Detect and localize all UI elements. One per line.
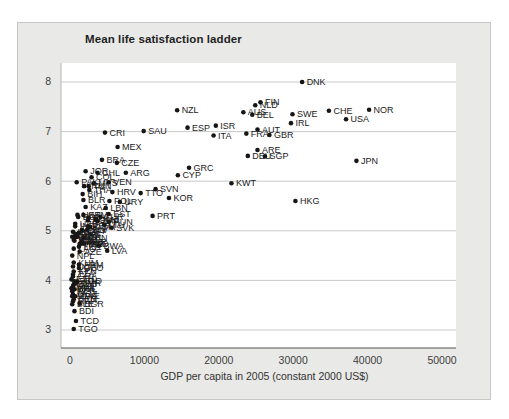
scatter-point bbox=[71, 274, 76, 279]
scatter-point bbox=[300, 80, 305, 85]
scatter-point bbox=[73, 294, 78, 299]
scatter-point bbox=[141, 129, 146, 134]
point-label: DNK bbox=[307, 77, 326, 87]
scatter-point bbox=[327, 108, 332, 113]
scatter-point bbox=[94, 218, 99, 223]
point-label: HKG bbox=[300, 196, 320, 206]
scatter-point bbox=[367, 107, 372, 112]
point-label: PRT bbox=[157, 211, 175, 221]
scatter-point bbox=[124, 170, 129, 175]
scatter-point bbox=[293, 199, 298, 204]
scatter-point bbox=[185, 125, 190, 130]
scatter-point bbox=[244, 131, 249, 136]
point-label: KWT bbox=[236, 178, 256, 188]
point-label: NZL bbox=[182, 105, 199, 115]
scatter-point bbox=[72, 287, 77, 292]
x-axis-title: GDP per capita in 2005 (constant 2000 US… bbox=[160, 370, 368, 382]
point-label: HND bbox=[84, 239, 104, 249]
scatter-point bbox=[81, 198, 86, 203]
scatter-point bbox=[70, 302, 75, 307]
scatter-point bbox=[103, 130, 108, 135]
scatter-point bbox=[138, 191, 143, 196]
scatter-point bbox=[74, 281, 79, 286]
scatter-point bbox=[250, 112, 255, 117]
scatter-point bbox=[83, 169, 88, 174]
point-label: BDI bbox=[79, 306, 94, 316]
point-label: SAU bbox=[148, 126, 167, 136]
scatter-point bbox=[176, 173, 181, 178]
scatter-point bbox=[74, 234, 79, 239]
x-tick-label: 30000 bbox=[279, 354, 308, 366]
point-label: FRA bbox=[251, 129, 269, 139]
scatter-point bbox=[263, 154, 268, 159]
scatter-point bbox=[214, 123, 219, 128]
y-tick-label: 5 bbox=[45, 224, 51, 236]
scatter-point bbox=[74, 180, 79, 185]
scatter-point bbox=[82, 184, 87, 189]
y-tick-label: 4 bbox=[45, 274, 51, 286]
scatter-point bbox=[115, 161, 120, 166]
scatter-point bbox=[77, 241, 82, 246]
scatter-point bbox=[71, 264, 76, 269]
y-tick-label: 3 bbox=[45, 323, 51, 335]
scatter-point bbox=[267, 133, 272, 138]
scatter-point bbox=[344, 117, 349, 122]
scatter-point bbox=[76, 215, 81, 220]
point-label: JAM bbox=[101, 215, 119, 225]
scatter-point bbox=[175, 108, 180, 113]
y-tick-label: 8 bbox=[45, 75, 51, 87]
scatter-point bbox=[88, 225, 93, 230]
x-tick-label: 50000 bbox=[427, 354, 456, 366]
screenshot-page: Mean life satisfaction ladder 3456780100… bbox=[0, 0, 509, 419]
point-label: TTO bbox=[145, 188, 163, 198]
scatter-point bbox=[73, 222, 78, 227]
x-tick-label: 40000 bbox=[353, 354, 382, 366]
x-tick-label: 10000 bbox=[130, 354, 159, 366]
scatter-point bbox=[71, 246, 76, 251]
scatter-point bbox=[80, 192, 85, 197]
scatter-plot: 34567801000020000300004000050000GDP per … bbox=[0, 0, 509, 419]
scatter-point bbox=[241, 110, 246, 115]
point-label: ITA bbox=[218, 131, 231, 141]
scatter-point bbox=[83, 205, 88, 210]
scatter-point bbox=[246, 154, 251, 159]
point-label: TGO bbox=[78, 324, 98, 334]
point-label: ARG bbox=[130, 168, 150, 178]
scatter-point bbox=[229, 181, 234, 186]
scatter-point bbox=[70, 253, 75, 258]
x-tick-label: 0 bbox=[67, 354, 73, 366]
point-label: BEL bbox=[257, 110, 274, 120]
point-label: CZE bbox=[121, 158, 139, 168]
scatter-point bbox=[290, 112, 295, 117]
point-label: ISR bbox=[220, 121, 236, 131]
point-label: MEX bbox=[122, 142, 142, 152]
point-label: CRI bbox=[109, 128, 125, 138]
point-label: KOR bbox=[173, 193, 193, 203]
scatter-point bbox=[71, 260, 76, 265]
scatter-point bbox=[81, 213, 86, 218]
point-label: IRL bbox=[295, 118, 309, 128]
scatter-point bbox=[289, 121, 294, 126]
point-label: USA bbox=[351, 114, 370, 124]
scatter-point bbox=[100, 158, 105, 163]
y-tick-label: 6 bbox=[45, 175, 51, 187]
x-tick-label: 20000 bbox=[204, 354, 233, 366]
y-tick-label: 7 bbox=[45, 125, 51, 137]
point-label: ESP bbox=[192, 123, 210, 133]
point-label: GBR bbox=[274, 130, 294, 140]
scatter-point bbox=[71, 327, 76, 332]
point-label: SGP bbox=[269, 151, 288, 161]
scatter-point bbox=[110, 190, 115, 195]
scatter-point bbox=[167, 196, 172, 201]
scatter-point bbox=[211, 133, 216, 138]
scatter-point bbox=[74, 319, 79, 324]
point-label: NOR bbox=[374, 105, 395, 115]
point-label: VEN bbox=[113, 177, 132, 187]
scatter-point bbox=[150, 214, 155, 219]
scatter-point bbox=[115, 145, 120, 150]
point-label: JPN bbox=[361, 156, 378, 166]
scatter-point bbox=[72, 309, 77, 314]
point-label: CYP bbox=[182, 170, 201, 180]
scatter-point bbox=[86, 184, 91, 189]
scatter-point bbox=[354, 159, 359, 164]
